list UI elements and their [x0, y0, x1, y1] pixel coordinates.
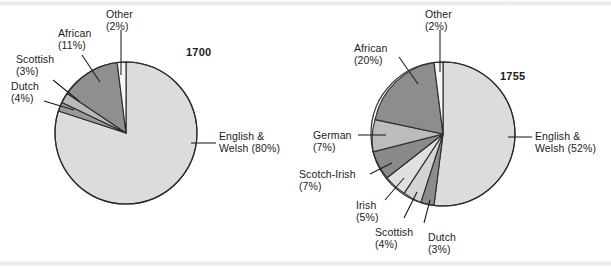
- pie-1755-label-irish-pct: (5%): [356, 211, 379, 223]
- pie-1755-label-scotch-irish-pct: (7%): [299, 180, 322, 192]
- pie-1755-label-other-name: Other: [425, 8, 452, 20]
- pie-1700-slices: [55, 62, 197, 204]
- pie-1700-label-scottish-name: Scottish: [16, 53, 54, 65]
- pie-1755-label-german-pct: (7%): [313, 141, 336, 153]
- pie-1755-label-african-pct: (20%): [354, 54, 383, 66]
- pie-1755-label-english-welsh: English & Welsh (52%): [535, 130, 596, 154]
- pie-1755-label-african-name: African: [354, 42, 387, 54]
- slice-1755-english-welsh[interactable]: [434, 62, 515, 206]
- pie-1700-label-dutch-name: Dutch: [11, 80, 39, 92]
- pie-1755-year-label: 1755: [500, 70, 525, 82]
- pie-chart-figure: 1700 English & Welsh (80%) African (11%)…: [0, 0, 611, 274]
- pie-1755-label-dutch-pct: (3%): [428, 243, 451, 255]
- pie-chart-canvas: [0, 0, 611, 274]
- pie-1700-label-scottish-pct: (3%): [16, 65, 39, 77]
- pie-1755-label-scottish-pct: (4%): [375, 238, 398, 250]
- pie-1700-label-african-name: African: [58, 27, 91, 39]
- pie-1755-label-scotch-irish-name: Scotch-Irish: [299, 168, 356, 180]
- pie-1700-label-dutch-pct: (4%): [11, 92, 34, 104]
- pie-1700-label-african-pct: (11%): [58, 39, 86, 51]
- pie-1700-year-label: 1700: [186, 46, 211, 58]
- pie-1755-label-scottish-name: Scottish: [375, 226, 413, 238]
- pie-1755-label-other-pct: (2%): [425, 20, 448, 32]
- pie-1755-label-german-name: German: [313, 129, 352, 141]
- pie-1700-label-other-pct: (2%): [106, 20, 129, 32]
- pie-1700-label-english-welsh: English & Welsh (80%): [219, 130, 280, 154]
- pie-1755-slices: [371, 62, 515, 206]
- pie-1755-label-irish-name: Irish: [356, 199, 376, 211]
- pie-1755-label-dutch-name: Dutch: [428, 231, 456, 243]
- pie-1700-label-other-name: Other: [106, 8, 133, 20]
